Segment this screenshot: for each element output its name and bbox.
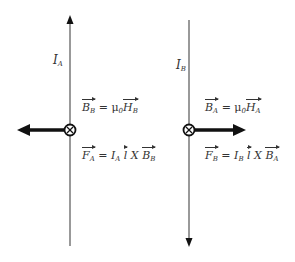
current-label-a: IA (53, 53, 63, 68)
current-subscript: B (181, 65, 186, 73)
eq-operator: = (218, 149, 234, 162)
vector-b: BB (142, 149, 155, 163)
eq-operator: = μ (218, 101, 241, 114)
field-into-page-icon-b (184, 125, 195, 136)
field-equation-b: BA = μ0HA (205, 101, 261, 115)
current-label-b: IB (176, 58, 186, 73)
eq-symbol: H (123, 101, 133, 114)
eq-symbol: l (124, 149, 128, 162)
eq-symbol: F (205, 149, 213, 162)
eq-subscript: A (115, 155, 120, 163)
current-subscript: A (58, 60, 63, 68)
eq-symbol: l (247, 149, 251, 162)
vector-f: FA (82, 149, 95, 163)
wire-a-current-arrowhead (67, 15, 74, 24)
eq-subscript: B (150, 155, 155, 163)
eq-subscript: B (133, 107, 138, 115)
vector-h: HB (123, 101, 138, 115)
eq-symbol: B (82, 101, 90, 114)
eq-operator: = μ (95, 101, 118, 114)
vector-l: l (124, 149, 128, 162)
vector-b: BB (82, 101, 95, 115)
force-a-arrowhead (17, 124, 30, 136)
eq-subscript: A (90, 155, 95, 163)
field-into-page-icon-a (65, 125, 76, 136)
force-equation-a: FA = IA l X BB (82, 149, 155, 163)
eq-subscript: A (273, 155, 278, 163)
vector-l: l (247, 149, 251, 162)
eq-subscript: B (213, 155, 218, 163)
eq-subscript: A (213, 107, 218, 115)
cross-operator: X (251, 149, 266, 162)
eq-subscript: A (256, 107, 261, 115)
eq-symbol: F (82, 149, 90, 162)
eq-subscript: B (238, 155, 243, 163)
wire-b-current-arrowhead (186, 238, 193, 247)
force-b-arrowhead (233, 124, 246, 136)
vector-f: FB (205, 149, 218, 163)
cross-operator: X (127, 149, 142, 162)
eq-operator: = (95, 149, 111, 162)
vector-b: BA (265, 149, 278, 163)
diagram-canvas (0, 0, 295, 262)
vector-b: BA (205, 101, 218, 115)
vector-h: HA (246, 101, 261, 115)
eq-subscript: B (90, 107, 95, 115)
eq-symbol: B (205, 101, 213, 114)
field-equation-a: BB = μ0HB (82, 101, 138, 115)
force-equation-b: FB = IB l X BA (205, 149, 279, 163)
eq-symbol: H (246, 101, 256, 114)
